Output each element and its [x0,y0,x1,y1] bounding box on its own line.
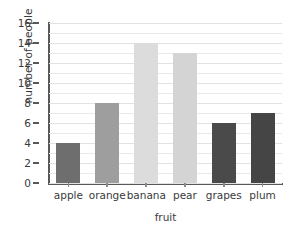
y-tick-mark [33,22,39,24]
y-tick-mark [33,162,39,164]
x-tick-mark [262,183,264,187]
x-tick-mark [68,183,70,187]
y-tick-label: 12 [18,58,31,68]
x-tick-label-plum: plum [243,188,282,202]
x-tick-mark [184,183,186,187]
x-tick-label-banana: banana [127,188,166,202]
y-tick-mark [33,102,39,104]
bar-apple [56,143,80,183]
y-tick-label: 6 [24,118,31,128]
y-tick-mark [33,42,39,44]
x-tick-label-orange: orange [88,188,127,202]
bar-plum [251,113,275,183]
bar-chart: number of people 0246810121416 appleoran… [0,0,292,236]
y-tick-label: 4 [24,138,31,148]
y-tick-mark [33,82,39,84]
x-tick-mark [223,183,225,187]
bar-pear [173,53,197,183]
bar-orange [95,103,119,183]
y-tick-mark [33,122,39,124]
y-tick-label: 10 [18,78,31,88]
y-tick-mark [33,62,39,64]
x-axis-tick-labels: appleorangebananapeargrapesplum [0,188,292,204]
y-tick-label: 16 [18,18,31,28]
x-tick-mark [145,183,147,187]
x-tick-label-pear: pear [166,188,205,202]
x-tick-mark [106,183,108,187]
y-tick-label: 0 [24,178,31,188]
x-tick-label-grapes: grapes [204,188,243,202]
x-axis-title: fruit [49,211,282,223]
y-axis-ticks: 0246810121416 [0,0,49,184]
y-tick-label: 8 [24,98,31,108]
plot-area [49,23,282,183]
bar-grapes [212,123,236,183]
bars-group [49,23,282,183]
y-tick-label: 2 [24,158,31,168]
y-tick-label: 14 [18,38,31,48]
y-tick-mark [33,142,39,144]
bar-banana [134,43,158,183]
y-tick-mark [33,182,39,184]
x-tick-label-apple: apple [49,188,88,202]
